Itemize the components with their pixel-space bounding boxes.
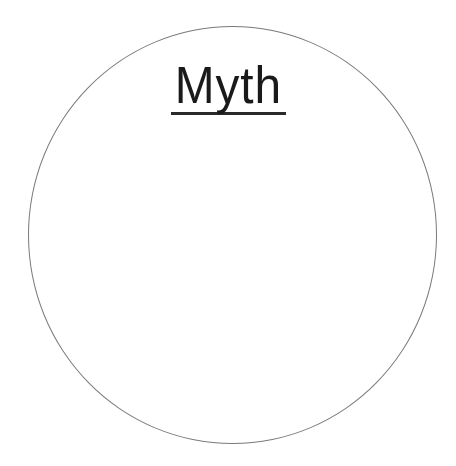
myth-title-text: Myth — [171, 58, 286, 115]
myth-title: Myth — [0, 55, 456, 115]
